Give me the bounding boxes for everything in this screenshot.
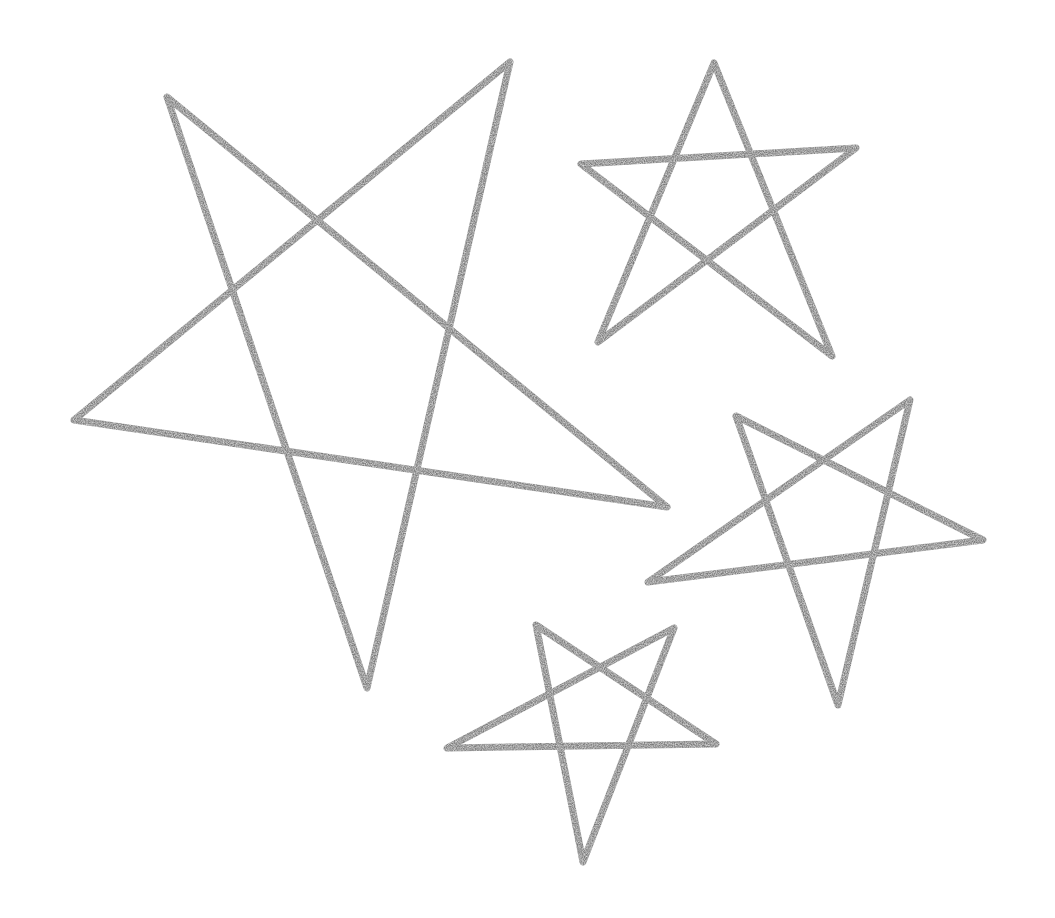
middle-right-star-icon <box>648 400 983 705</box>
star-group <box>74 62 983 862</box>
top-right-star-icon <box>581 63 856 356</box>
large-star-icon <box>74 62 667 688</box>
drawing-canvas <box>0 0 1055 918</box>
stars-drawing <box>0 0 1055 918</box>
bottom-star-icon <box>447 625 716 862</box>
